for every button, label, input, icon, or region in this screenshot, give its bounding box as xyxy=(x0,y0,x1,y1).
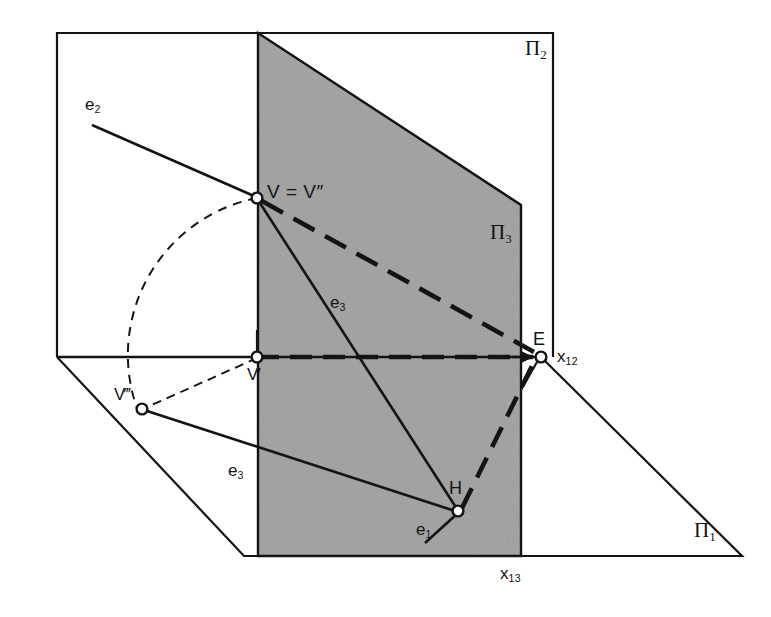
label-axis-x13-base: x xyxy=(500,564,509,583)
diagram-svg xyxy=(0,0,771,617)
label-plane-pi1-subscript: 1 xyxy=(709,529,716,544)
connector-e-to-plane-edge xyxy=(521,362,537,390)
marker-point-v xyxy=(252,193,263,204)
label-line-e2: e2 xyxy=(85,96,101,113)
marker-point-e xyxy=(536,352,547,363)
label-line-e3-rotated-subscript: 3 xyxy=(237,469,243,481)
label-point-v-triple-prime: V‴ xyxy=(114,386,130,403)
label-point-e: E xyxy=(533,330,545,348)
label-axis-x12-base: x xyxy=(557,347,566,366)
line-e2-stroke xyxy=(92,125,254,196)
label-plane-pi1: Π1 xyxy=(694,520,716,541)
label-line-e3-in-plane: e3 xyxy=(330,294,346,311)
label-plane-pi3: Π3 xyxy=(490,222,512,243)
label-plane-pi3-base: Π xyxy=(490,220,505,244)
label-axis-x12-subscript: 12 xyxy=(566,355,579,367)
label-axis-x13-subscript: 13 xyxy=(509,572,522,584)
plane-pi3-shaded-region xyxy=(258,33,521,556)
label-line-e2-subscript: 2 xyxy=(94,103,100,115)
label-line-e3-in-plane-subscript: 3 xyxy=(339,301,345,313)
label-axis-x13: x13 xyxy=(500,565,521,582)
label-point-h: H xyxy=(449,479,462,497)
marker-point-v-triple-prime xyxy=(137,404,148,415)
label-line-e1: e1 xyxy=(416,521,432,538)
marker-point-v-prime xyxy=(252,352,263,363)
label-line-e1-subscript: 1 xyxy=(425,528,431,540)
label-plane-pi2-base: Π xyxy=(525,36,540,60)
label-plane-pi2: Π2 xyxy=(525,38,547,59)
label-point-v-prime: V′ xyxy=(247,366,261,383)
figure-canvas: Π2 Π3 Π1 V = V″ V′ V‴ E H e2 e3 e3 e1 x1… xyxy=(0,0,771,617)
label-axis-x12: x12 xyxy=(557,348,578,365)
label-point-v: V = V″ xyxy=(267,182,324,201)
marker-point-h xyxy=(453,506,464,517)
label-line-e3-rotated: e3 xyxy=(228,462,244,479)
label-plane-pi3-subscript: 3 xyxy=(505,231,512,246)
label-plane-pi2-subscript: 2 xyxy=(540,47,547,62)
label-plane-pi1-base: Π xyxy=(694,518,709,542)
rotation-arc-dashed xyxy=(128,198,257,411)
